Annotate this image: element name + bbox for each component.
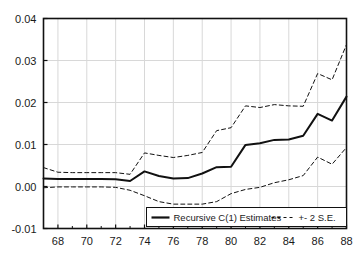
y-tick-label: 0.02 <box>15 97 36 109</box>
y-tick-label: 0.01 <box>15 139 36 151</box>
recursive-estimates-chart: 0.040.030.020.010.00-0.01 68707274767880… <box>0 0 362 263</box>
x-tick-label: 74 <box>138 235 150 247</box>
x-tick-label: 86 <box>312 235 324 247</box>
chart-legend: Recursive C(1) Estimates+- 2 S.E. <box>147 208 347 227</box>
y-tick-label: 0.04 <box>15 13 36 25</box>
x-tick-label: 70 <box>81 235 93 247</box>
chart-canvas: 0.040.030.020.010.00-0.01 68707274767880… <box>0 0 362 263</box>
legend-label-recursive-estimates: Recursive C(1) Estimates <box>174 212 282 223</box>
x-tick-label: 88 <box>340 235 352 247</box>
x-tick-label: 72 <box>110 235 122 247</box>
y-tick-label: 0.00 <box>15 181 36 193</box>
x-tick-label: 68 <box>52 235 64 247</box>
x-tick-label: 84 <box>283 235 295 247</box>
y-tick-label: -0.01 <box>11 223 36 235</box>
x-tick-label: 80 <box>225 235 237 247</box>
x-tick-label: 78 <box>196 235 208 247</box>
x-tick-label: 76 <box>167 235 179 247</box>
x-tick-label: 82 <box>254 235 266 247</box>
y-tick-label: 0.03 <box>15 55 36 67</box>
legend-label-two-se: +- 2 S.E. <box>299 212 336 223</box>
